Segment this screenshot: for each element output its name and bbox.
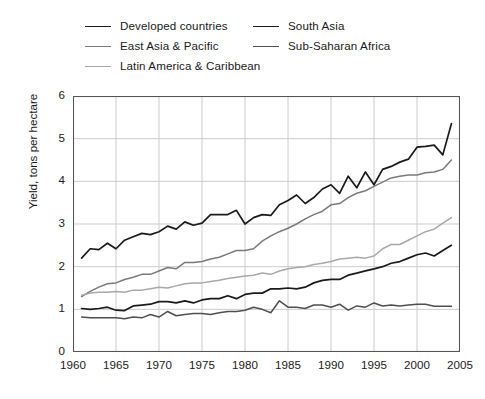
legend-item-sub-saharan-africa: Sub-Saharan Africa — [253, 36, 390, 56]
series-line-latin-america-caribbean — [82, 218, 452, 296]
legend-item-east-asia-pacific: East Asia & Pacific — [85, 36, 260, 56]
y-tick-label: 6 — [39, 88, 65, 101]
x-tick-label: 1975 — [179, 358, 225, 371]
x-tick-label: 1980 — [222, 358, 268, 371]
series-line-east-asia-pacific — [82, 160, 452, 297]
x-tick-label: 2000 — [394, 358, 440, 371]
y-tick-label: 5 — [39, 131, 65, 144]
legend-label-sub-saharan-africa: Sub-Saharan Africa — [288, 36, 390, 56]
x-tick-label: 1960 — [50, 358, 96, 371]
legend-item-south-asia: South Asia — [253, 16, 390, 36]
y-tick-label: 3 — [39, 216, 65, 229]
legend-swatch-east-asia-pacific — [85, 46, 111, 47]
chart-legend: Developed countries East Asia & Pacific … — [85, 16, 445, 78]
legend-label-south-asia: South Asia — [288, 16, 344, 36]
series-line-south-asia — [82, 245, 452, 310]
legend-label-east-asia-pacific: East Asia & Pacific — [120, 36, 219, 56]
gridlines — [73, 96, 460, 352]
x-tick-label: 1970 — [136, 358, 182, 371]
legend-item-developed-countries: Developed countries — [85, 16, 260, 36]
legend-swatch-latin-america-caribbean — [85, 66, 111, 67]
y-tick-label: 0 — [39, 344, 65, 357]
x-tick-label: 2005 — [437, 358, 483, 371]
legend-column-right: South Asia Sub-Saharan Africa — [253, 16, 390, 56]
y-tick-label: 4 — [39, 173, 65, 186]
x-tick-label: 1985 — [265, 358, 311, 371]
legend-label-latin-america-caribbean: Latin America & Caribbean — [120, 56, 260, 76]
legend-swatch-sub-saharan-africa — [253, 46, 279, 47]
legend-item-latin-america-caribbean: Latin America & Caribbean — [85, 56, 260, 76]
y-tick-label: 1 — [39, 301, 65, 314]
x-tick-label: 1995 — [351, 358, 397, 371]
legend-swatch-developed-countries — [85, 26, 111, 27]
chart-figure: Developed countries East Asia & Pacific … — [0, 0, 485, 399]
y-axis-label: Yield, tons per hectare — [26, 52, 39, 252]
legend-swatch-south-asia — [253, 26, 279, 27]
legend-column-left: Developed countries East Asia & Pacific … — [85, 16, 260, 76]
y-tick-label: 2 — [39, 259, 65, 272]
plot-area: 0123456 19601965197019751980198519901995… — [73, 96, 460, 352]
data-series-group — [82, 124, 452, 319]
chart-svg — [73, 96, 460, 352]
legend-label-developed-countries: Developed countries — [120, 16, 228, 36]
x-tick-label: 1965 — [93, 358, 139, 371]
x-tick-label: 1990 — [308, 358, 354, 371]
